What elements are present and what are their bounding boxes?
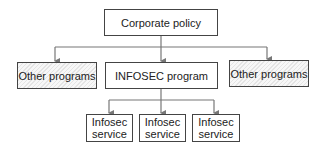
node-label: INFOSEC program bbox=[115, 70, 208, 82]
node-other-programs-right: Other programs bbox=[229, 60, 309, 87]
node-infosec-service-1: Infosec service bbox=[86, 114, 133, 142]
node-label: Infosec service bbox=[142, 116, 183, 140]
node-infosec-program: INFOSEC program bbox=[105, 62, 218, 89]
node-label: Infosec service bbox=[89, 116, 130, 140]
node-label: Corporate policy bbox=[121, 17, 201, 29]
node-label: Other programs bbox=[18, 70, 95, 82]
node-corporate-policy: Corporate policy bbox=[104, 9, 218, 36]
node-infosec-service-2: Infosec service bbox=[139, 114, 186, 142]
node-label: Infosec service bbox=[195, 116, 237, 140]
node-label: Other programs bbox=[230, 68, 307, 80]
node-infosec-service-3: Infosec service bbox=[192, 114, 240, 142]
node-other-programs-left: Other programs bbox=[17, 62, 97, 89]
